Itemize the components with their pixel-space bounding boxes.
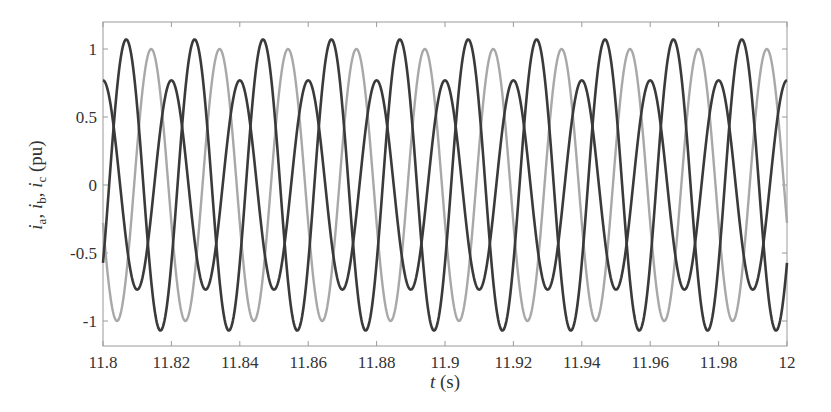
x-tick-label: 11.96 bbox=[631, 353, 669, 372]
x-tick-label: 11.9 bbox=[430, 353, 459, 372]
x-tick-label: 11.94 bbox=[563, 353, 601, 372]
x-axis-label: t (s) bbox=[430, 371, 460, 393]
x-tick-label: 11.88 bbox=[358, 353, 396, 372]
x-tick-label: 11.8 bbox=[88, 353, 117, 372]
x-tick-label: 11.86 bbox=[289, 353, 327, 372]
y-axis-label: ia, ib, ic (pu) bbox=[25, 140, 49, 229]
x-tick-label: 12 bbox=[779, 353, 796, 372]
y-tick-label: -0.5 bbox=[70, 244, 97, 263]
y-tick-label: 0.5 bbox=[76, 108, 97, 127]
x-tick-label: 11.92 bbox=[495, 353, 533, 372]
y-tick-label: -1 bbox=[83, 312, 97, 331]
y-tick-label: 0 bbox=[89, 176, 98, 195]
x-tick-label: 11.98 bbox=[700, 353, 738, 372]
plot-frame bbox=[103, 22, 787, 346]
x-tick-label: 11.82 bbox=[153, 353, 191, 372]
chart: 11.811.8211.8411.8611.8811.911.9211.9411… bbox=[0, 0, 831, 412]
x-tick-label: 11.84 bbox=[221, 353, 259, 372]
y-tick-label: 1 bbox=[89, 40, 98, 59]
